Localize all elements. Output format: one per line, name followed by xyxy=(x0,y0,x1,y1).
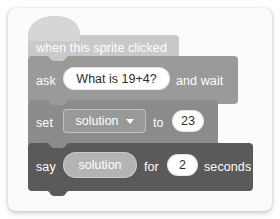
hat-block-label: when this sprite clicked xyxy=(36,41,167,55)
hat-highlight xyxy=(28,16,80,41)
chevron-down-icon xyxy=(126,119,134,124)
script-card: when this sprite clicked ask What is 19+… xyxy=(8,8,272,211)
ask-question-input[interactable]: What is 19+4? xyxy=(63,67,170,90)
say-label-after: seconds xyxy=(204,160,251,174)
ask-label-before: ask xyxy=(36,74,56,88)
set-value-input[interactable]: 23 xyxy=(172,110,204,132)
say-label-middle: for xyxy=(144,160,159,174)
set-variable-dropdown-value: solution xyxy=(75,114,118,128)
say-solution-reporter[interactable]: solution xyxy=(63,152,137,178)
say-label-before: say xyxy=(36,160,56,174)
say-seconds-input[interactable]: 2 xyxy=(167,154,198,176)
set-label-before: set xyxy=(36,116,53,130)
screenshot-stage: when this sprite clicked ask What is 19+… xyxy=(0,0,280,219)
set-label-middle: to xyxy=(153,116,164,130)
ask-label-after: and wait xyxy=(176,74,223,88)
set-variable-dropdown[interactable]: solution xyxy=(63,109,146,133)
